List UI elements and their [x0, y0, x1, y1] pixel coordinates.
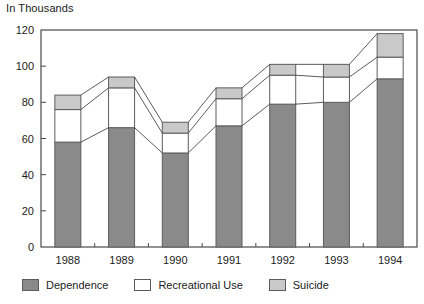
legend-swatch-recreational-use: [134, 279, 151, 291]
stack-connector-line: [242, 75, 270, 99]
bar-segment: [323, 64, 349, 77]
bar-segment: [162, 153, 188, 247]
stack-connector-line: [188, 88, 216, 122]
y-axis-tick-label: 20: [22, 205, 34, 217]
y-axis-tick-label: 100: [16, 60, 34, 72]
bar-segment: [162, 133, 188, 153]
stack-connector-line: [81, 88, 109, 110]
stack-connector-line: [135, 88, 163, 133]
stack-connector-line: [296, 102, 324, 104]
bar-segment: [216, 99, 242, 126]
stack-connector-line: [349, 79, 377, 103]
legend-item-dependence: Dependence: [22, 279, 108, 291]
x-axis-category-label: 1991: [217, 254, 241, 266]
x-axis-category-label: 1992: [270, 254, 294, 266]
bar-segment: [270, 104, 296, 247]
bar-segment: [109, 77, 135, 88]
bar-segment: [109, 88, 135, 128]
bar-segment: [216, 126, 242, 247]
bar-segment: [109, 128, 135, 247]
legend-swatch-dependence: [22, 279, 39, 291]
y-axis-tick-label: 40: [22, 169, 34, 181]
legend-item-recreational-use: Recreational Use: [134, 279, 242, 291]
stack-connector-line: [188, 99, 216, 133]
y-axis-tick-label: 60: [22, 133, 34, 145]
y-axis-tick-label: 120: [16, 24, 34, 36]
legend-item-suicide: Suicide: [269, 279, 329, 291]
bar-segment: [55, 142, 81, 247]
bar-segment: [377, 57, 403, 79]
bar-segment: [162, 122, 188, 133]
y-axis-tick-label: 0: [28, 241, 34, 253]
stack-connector-line: [188, 126, 216, 153]
x-axis-category-label: 1993: [324, 254, 348, 266]
bar-segment: [270, 75, 296, 104]
stack-connector-line: [242, 104, 270, 126]
plot-area: 0204060801001201988198919901991199219931…: [0, 0, 424, 304]
bar-segment: [216, 88, 242, 99]
bar-segment: [323, 77, 349, 102]
stack-connector-line: [242, 64, 270, 88]
stacked-bar-chart: In Thousands 020406080100120198819891990…: [0, 0, 424, 304]
stack-connector-line: [296, 75, 324, 77]
x-axis-category-label: 1988: [56, 254, 80, 266]
x-axis-category-label: 1989: [109, 254, 133, 266]
bar-segment: [323, 102, 349, 247]
stack-connector-line: [135, 77, 163, 122]
stack-connector-line: [81, 128, 109, 142]
chart-legend: Dependence Recreational Use Suicide: [22, 279, 355, 291]
stack-connector-line: [81, 77, 109, 95]
y-axis-tick-label: 80: [22, 96, 34, 108]
legend-label-suicide: Suicide: [293, 279, 329, 291]
legend-swatch-suicide: [269, 279, 286, 291]
x-axis-category-label: 1990: [163, 254, 187, 266]
bar-segment: [270, 64, 296, 75]
legend-label-recreational-use: Recreational Use: [158, 279, 242, 291]
bar-segment: [377, 79, 403, 247]
x-axis-category-label: 1994: [378, 254, 402, 266]
stack-connector-line: [135, 128, 163, 153]
bar-segment: [55, 110, 81, 143]
bar-segment: [377, 34, 403, 58]
bar-segment: [55, 95, 81, 109]
legend-label-dependence: Dependence: [46, 279, 108, 291]
